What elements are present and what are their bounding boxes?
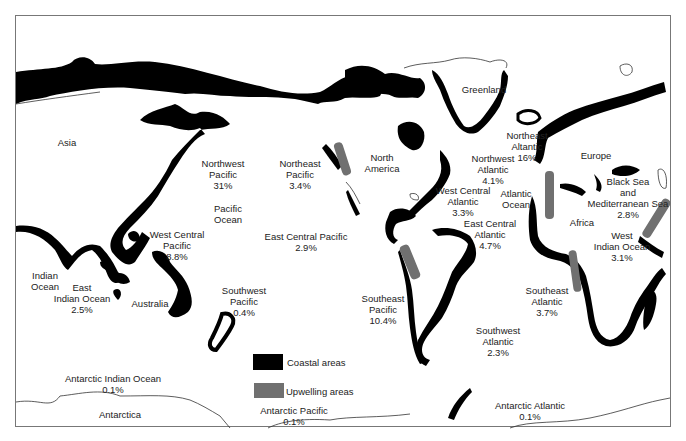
region-west-central-pacific: West CentralPacific8.8%: [150, 229, 205, 262]
region-east-central-pacific: East Central Pacific2.9%: [265, 231, 348, 253]
label-pacific-ocean: Pacific Ocean: [204, 203, 252, 225]
region-east-central-atlantic: East CentralAtlantic4.7%: [464, 218, 516, 251]
label-atlantic-ocean: Atlantic Ocean: [494, 188, 538, 210]
legend-coastal-label: Coastal areas: [287, 357, 346, 368]
region-northeast-pacific: NortheastPacific3.4%: [279, 158, 320, 191]
label-australia: Australia: [132, 298, 169, 309]
label-north-america: North America: [352, 152, 412, 174]
region-southwest-atlantic: SouthwestAtlantic2.3%: [476, 325, 520, 358]
legend-upwelling-label: Upwelling areas: [286, 386, 354, 397]
region-black-sea-mediterranean: Black SeaandMediterranean Sea2.8%: [588, 176, 669, 220]
label-greenland: Greenland: [462, 84, 506, 95]
region-west-indian-ocean: WestIndian Ocean3.1%: [594, 230, 651, 263]
legend-upwelling-swatch: [254, 383, 284, 398]
region-northeast-atlantic: NortheastAltantic16%: [506, 130, 547, 163]
region-west-central-atlantic: West CentralAtlantic3.3%: [436, 185, 491, 218]
region-northwest-pacific: NorthwestPacific31%: [202, 158, 245, 191]
region-east-indian-ocean: EastIndian Ocean2.5%: [54, 282, 111, 315]
region-antarctic-indian-ocean: Antarctic Indian Ocean0.1%: [65, 373, 161, 395]
region-southeast-pacific: SoutheastPacific10.4%: [362, 293, 405, 326]
legend-coastal-swatch: [253, 354, 283, 370]
region-antarctic-pacific: Antarctic Pacific0.1%: [260, 405, 328, 427]
region-southeast-atlantic: SoutheastAtlantic3.7%: [526, 285, 569, 318]
region-antarctic-atlantic: Antarctic Atlantic0.1%: [495, 400, 565, 422]
label-asia: Asia: [58, 137, 76, 148]
region-southwest-pacific: SouthwestPacific0.4%: [222, 285, 266, 318]
label-europe: Europe: [581, 150, 612, 161]
label-antarctica: Antarctica: [99, 409, 141, 420]
